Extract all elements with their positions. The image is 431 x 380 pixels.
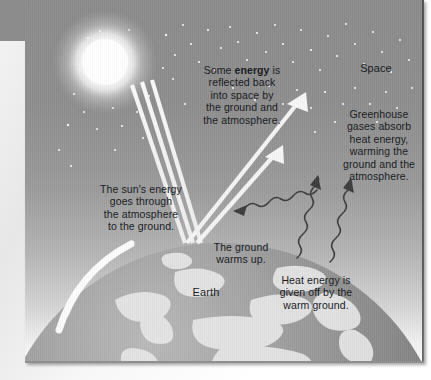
callout-reflected-bold: energy [235,64,270,76]
greenhouse-effect-illustration: Some energy is reflected back into space… [25,0,424,363]
label-space: Space [341,62,411,74]
callout-sun-energy: The sun's energy goes through the atmosp… [78,183,204,233]
label-earth: Earth [177,286,235,298]
book-gutter-band [0,0,25,41]
sun-icon [53,10,157,114]
callout-greenhouse-gases: Greenhouse gases absorb heat energy, war… [329,108,424,182]
callout-reflected-energy: Some energy is reflected back into space… [181,64,303,126]
callout-heat-given-off: Heat energy is given off by the warm gro… [259,274,373,311]
callout-ground-warms: The ground warms up. [191,241,291,266]
illustration-page: Some energy is reflected back into space… [0,0,431,380]
plate-bottom-edge [25,361,424,363]
callout-reflected-pre: Some [204,64,235,76]
